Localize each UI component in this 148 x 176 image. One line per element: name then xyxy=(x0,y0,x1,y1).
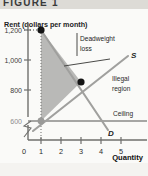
deadweight-loss-label-line1: Deadweight xyxy=(80,35,115,43)
deadweight-loss-label-line2: loss xyxy=(80,45,92,52)
x-tick-label-2: 2 xyxy=(59,147,63,156)
x-tick-label-3: 3 xyxy=(79,147,83,156)
x-tick-label-0: 0 xyxy=(22,147,26,156)
chart-svg: 1,200 1,000 800 600 0 1 2 3 4 5 Deadweig… xyxy=(0,9,148,167)
y-tick-label-600: 600 xyxy=(10,118,22,125)
demand-curve-label: D xyxy=(108,129,114,138)
figure-banner: FIGURE 1 xyxy=(0,0,148,9)
x-tick-label-4: 4 xyxy=(99,147,103,156)
x-axis-title: Quantity xyxy=(112,153,143,162)
illegal-region-label-line2: region xyxy=(112,85,131,93)
deadweight-loss-region xyxy=(41,30,81,121)
supply-curve-label: S xyxy=(131,51,137,60)
deadweight-loss-leader-line xyxy=(64,59,110,66)
point-demand-at-q1 xyxy=(37,26,44,33)
x-tick-label-1: 1 xyxy=(39,147,43,156)
y-tick-label-800: 800 xyxy=(10,87,22,94)
x-axis-subtitle-band: (thousands of apartments) xyxy=(0,163,148,176)
y-tick-label-1000: 1,000 xyxy=(4,57,22,64)
figure-card: FIGURE 1 Rent (dollars per month) xyxy=(0,0,148,176)
figure-banner-label: FIGURE 1 xyxy=(3,0,59,8)
point-equilibrium xyxy=(77,78,84,85)
ceiling-label: Ceiling xyxy=(113,110,133,118)
y-tick-label-1200: 1,200 xyxy=(4,27,22,34)
chart-plot-panel: Rent (dollars per month) 1,200 xyxy=(0,9,148,167)
point-supply-at-ceiling xyxy=(38,118,45,125)
illegal-region-label-line1: Illegal xyxy=(112,75,130,83)
